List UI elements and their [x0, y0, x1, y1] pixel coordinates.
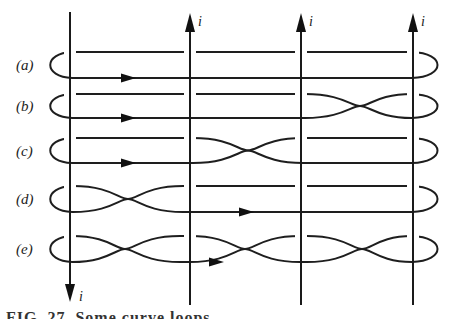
direction-arrow-icon: [121, 114, 136, 123]
current-label: i: [79, 289, 83, 304]
loop-right-cap: [412, 186, 438, 212]
loop-b: [50, 94, 437, 123]
loop-label: (e): [16, 241, 33, 258]
loop-left-cap: [50, 236, 72, 262]
loop-d: [50, 186, 437, 217]
loop-label: (c): [16, 143, 33, 160]
loop-a: [50, 52, 437, 83]
wire-1: i: [64, 12, 83, 304]
current-arrow-down-icon: [65, 284, 75, 302]
loop-left-cap: [50, 138, 72, 163]
loop-left-cap: [50, 94, 72, 118]
loop-label: (b): [16, 98, 34, 115]
current-arrow-up-icon: [408, 13, 418, 32]
current-label: i: [309, 14, 313, 29]
loop-right-cap: [412, 52, 438, 78]
direction-arrow-icon: [121, 159, 136, 168]
loop-e: [50, 236, 437, 267]
current-label: i: [198, 14, 202, 29]
direction-arrow-icon: [239, 208, 254, 217]
loop-strand: [72, 186, 412, 212]
linking-loops-diagram: iiii (a)(b)(c)(d)(e): [0, 0, 455, 319]
loop-right-cap: [412, 94, 438, 118]
loop-c: [50, 138, 437, 168]
current-label: i: [421, 14, 425, 29]
loop-left-cap: [50, 52, 72, 78]
figure-caption-partial: FIG. 27. Some curve loops...: [6, 309, 226, 319]
current-arrow-up-icon: [296, 13, 306, 32]
loop-right-cap: [412, 138, 438, 163]
loop-right-cap: [412, 236, 438, 262]
current-arrow-up-icon: [185, 13, 195, 32]
loop-strand: [72, 236, 412, 262]
loop-label: (d): [16, 191, 34, 208]
direction-arrow-icon: [121, 74, 136, 83]
loop-label: (a): [16, 57, 34, 74]
loop-left-cap: [50, 186, 72, 212]
loop-strand: [72, 186, 412, 212]
